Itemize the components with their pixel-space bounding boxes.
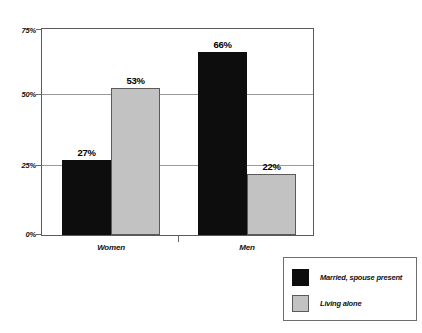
bar-value-men-married: 66%	[213, 39, 231, 50]
chart-screenshot: 75% 50% 25% 0% 27% 53% 66% 22% Women Men…	[0, 0, 422, 333]
plot-area: 75% 50% 25% 0% 27% 53% 66% 22% Women Men	[41, 28, 314, 236]
ytick-label-25: 25%	[22, 161, 36, 170]
ytick-label-75: 75%	[22, 26, 36, 35]
ytick-label-50: 50%	[22, 90, 36, 99]
legend-swatch-light-icon	[292, 295, 309, 312]
legend-swatch-dark-icon	[292, 269, 309, 286]
legend-item-married[interactable]: Married, spouse present	[290, 265, 410, 289]
bar-men-married[interactable]: 66%	[198, 52, 247, 235]
bar-women-living-alone[interactable]: 53%	[111, 88, 160, 235]
legend-item-living-alone[interactable]: Living alone	[290, 291, 410, 315]
group-divider-tick	[178, 235, 179, 242]
chart-legend: Married, spouse present Living alone	[283, 257, 417, 321]
ytick-mark-50	[36, 94, 41, 95]
bar-value-women-living-alone: 53%	[126, 75, 144, 86]
bar-women-married[interactable]: 27%	[62, 160, 111, 235]
bar-value-women-married: 27%	[77, 147, 95, 158]
xtick-label-men: Men	[239, 243, 254, 252]
ytick-mark-25	[36, 165, 41, 166]
xtick-label-women: Women	[97, 243, 125, 252]
legend-label-living-alone: Living alone	[320, 299, 361, 308]
gridline-50	[42, 94, 313, 95]
ytick-mark-0	[36, 234, 41, 235]
ytick-label-0: 0%	[26, 230, 36, 239]
legend-label-married: Married, spouse present	[320, 273, 402, 282]
bar-value-men-living-alone: 22%	[262, 161, 280, 172]
ytick-mark-75	[36, 29, 41, 30]
bar-men-living-alone[interactable]: 22%	[247, 174, 296, 235]
